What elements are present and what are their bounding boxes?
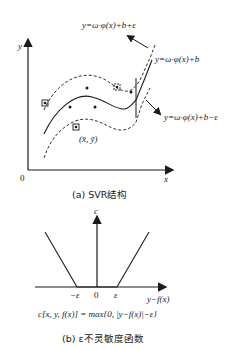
loss-axis-label: y−f(x) [146, 294, 170, 304]
data-point [86, 87, 89, 90]
c-axis-label: c [94, 206, 98, 216]
data-point [94, 106, 97, 109]
upper-bound-curve [44, 45, 155, 110]
tick-epsilon: ε [114, 290, 118, 300]
lower-bound-label: y=ω·φ(x)+b−ε [163, 112, 218, 122]
caption-b: (b) ε不灵敏度函数 [62, 333, 144, 344]
figure-a: y 0 x (x̄, ȳ) y=ω·φ(x)+b+ε [17, 20, 218, 200]
support-point-label: (x̄, ȳ) [79, 134, 97, 144]
tick-zero: 0 [94, 290, 99, 300]
x-axis-label: x [163, 174, 168, 184]
svr-figure: y 0 x (x̄, ȳ) y=ω·φ(x)+b+ε [0, 0, 233, 350]
support-vector [114, 84, 120, 90]
tick-neg-epsilon: −ε [70, 290, 80, 300]
y-axis-label: y [17, 41, 22, 51]
upper-bound-label: y=ω·φ(x)+b+ε [81, 20, 136, 30]
figure-b: c −ε 0 ε y−f(x) c[x, y, f(x)] = max{0, |… [35, 206, 170, 344]
data-point [69, 106, 72, 109]
caption-a: (a) SVR结构 [72, 189, 127, 200]
origin-label: 0 [20, 173, 25, 183]
support-vector [73, 124, 79, 130]
lower-bound-arrow [146, 100, 160, 114]
data-point [130, 91, 133, 94]
regression-label: y=ω·φ(x)+b [154, 54, 200, 64]
loss-formula: c[x, y, f(x)] = max{0, |y−f(x)|−ε} [38, 309, 157, 319]
upper-bound-arrow [128, 36, 148, 48]
